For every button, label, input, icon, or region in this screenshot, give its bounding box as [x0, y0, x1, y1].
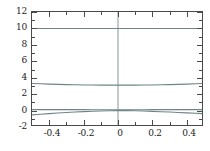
series-line-curve-4: [32, 111, 203, 115]
xtick-minor-bottom: [101, 122, 102, 125]
xtick-label: 0: [105, 129, 135, 138]
ytick-major-right: [197, 45, 202, 46]
ytick-major: [32, 61, 37, 62]
ytick-minor-right: [199, 53, 202, 54]
xtick-major: [187, 12, 188, 17]
chart-figure: 12 10 8 6 4 2 0 -2 -0.4 -0.2 0 0.2 0.4: [0, 0, 210, 151]
xtick-major: [152, 12, 153, 17]
xtick-label: 0.4: [174, 129, 204, 138]
series-line-curve-2: [32, 83, 203, 85]
ytick-label: 2: [3, 89, 27, 98]
ytick-minor: [32, 102, 35, 103]
ytick-label: 6: [3, 56, 27, 65]
xtick-minor: [170, 12, 171, 15]
xtick-label: -0.4: [37, 129, 67, 138]
ytick-major-right: [197, 94, 202, 95]
ytick-minor-right: [199, 102, 202, 103]
ytick-minor: [32, 86, 35, 87]
xtick-major-bottom: [84, 120, 85, 125]
plot-canvas: [32, 12, 203, 126]
xtick-major-bottom: [152, 120, 153, 125]
ytick-minor-right: [199, 119, 202, 120]
ytick-minor: [32, 70, 35, 71]
ytick-label: 0: [3, 106, 27, 115]
xtick-major: [118, 12, 119, 17]
ytick-major-right: [197, 61, 202, 62]
ytick-major: [32, 28, 37, 29]
xtick-major-bottom: [49, 120, 50, 125]
xtick-major: [84, 12, 85, 17]
ytick-label: 8: [3, 40, 27, 49]
ytick-label: 12: [3, 7, 27, 16]
ytick-label: 10: [3, 23, 27, 32]
ytick-minor-right: [199, 86, 202, 87]
ytick-minor: [32, 37, 35, 38]
ytick-minor-right: [199, 70, 202, 71]
xtick-label: 0.2: [140, 129, 170, 138]
ytick-major-right: [197, 28, 202, 29]
ytick-major: [32, 78, 37, 79]
xtick-minor-bottom: [66, 122, 67, 125]
ytick-major: [32, 94, 37, 95]
ytick-major: [32, 12, 37, 13]
ytick-major-right: [197, 111, 202, 112]
ytick-label: 4: [3, 73, 27, 82]
ytick-minor: [32, 20, 35, 21]
ytick-major-right: [197, 78, 202, 79]
xtick-minor: [66, 12, 67, 15]
xtick-label: -0.2: [71, 129, 101, 138]
xtick-major: [49, 12, 50, 17]
plot-area: [31, 11, 203, 126]
ytick-minor: [32, 53, 35, 54]
ytick-major: [32, 45, 37, 46]
xtick-major-bottom: [187, 120, 188, 125]
ytick-minor-right: [199, 37, 202, 38]
xtick-minor-bottom: [170, 122, 171, 125]
ytick-minor: [32, 119, 35, 120]
xtick-minor-bottom: [135, 122, 136, 125]
xtick-major-bottom: [118, 120, 119, 125]
ytick-label: -2: [3, 122, 27, 131]
ytick-major-right: [197, 12, 202, 13]
xtick-minor: [135, 12, 136, 15]
ytick-minor-right: [199, 20, 202, 21]
xtick-minor: [101, 12, 102, 15]
ytick-major: [32, 111, 37, 112]
